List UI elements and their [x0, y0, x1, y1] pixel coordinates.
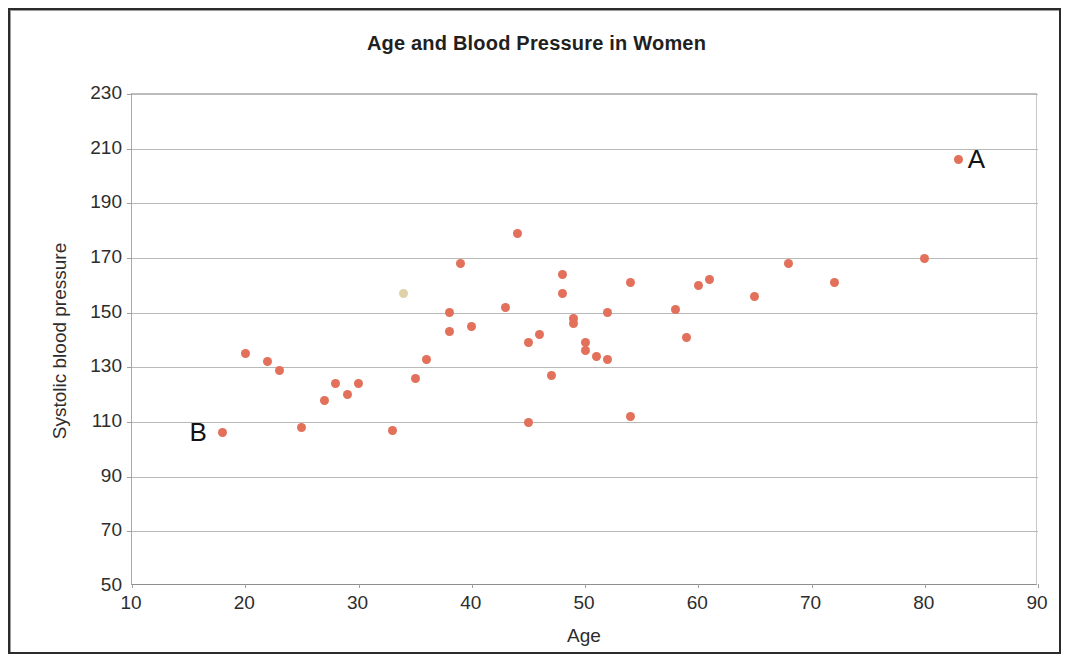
- y-tick-label-190: 190: [62, 191, 122, 213]
- x-tick-20: [245, 584, 246, 588]
- x-tick-label-40: 40: [441, 592, 501, 614]
- y-tick-110: [127, 422, 132, 423]
- data-point: [920, 254, 929, 263]
- x-tick-label-10: 10: [101, 592, 161, 614]
- data-point: [467, 322, 476, 331]
- gridline-y-130: [132, 367, 1038, 368]
- data-point: [343, 390, 352, 399]
- x-tick-50: [585, 584, 586, 588]
- x-tick-30: [359, 584, 360, 588]
- data-point: [603, 355, 612, 364]
- x-tick-40: [472, 584, 473, 588]
- annotation-a: A: [968, 146, 985, 172]
- data-point: [241, 349, 250, 358]
- y-tick-label-130: 130: [62, 355, 122, 377]
- data-point: [275, 366, 284, 375]
- gridline-y-150: [132, 313, 1038, 314]
- data-point: [411, 374, 420, 383]
- y-tick-label-90: 90: [62, 465, 122, 487]
- x-tick-10: [132, 584, 133, 588]
- y-tick-label-210: 210: [62, 137, 122, 159]
- data-point: [682, 333, 691, 342]
- y-tick-label-230: 230: [62, 82, 122, 104]
- y-tick-90: [127, 477, 132, 478]
- x-tick-label-90: 90: [1007, 592, 1067, 614]
- data-point: [456, 259, 465, 268]
- data-point: [535, 330, 544, 339]
- y-tick-210: [127, 149, 132, 150]
- data-point: [954, 155, 963, 164]
- data-point: [558, 289, 567, 298]
- x-tick-label-50: 50: [554, 592, 614, 614]
- data-point: [705, 275, 714, 284]
- data-point: [524, 418, 533, 427]
- y-tick-label-170: 170: [62, 246, 122, 268]
- gridline-y-110: [132, 422, 1038, 423]
- data-point: [694, 281, 703, 290]
- x-tick-label-30: 30: [328, 592, 388, 614]
- data-point: [399, 289, 408, 298]
- data-point: [445, 308, 454, 317]
- data-point: [501, 303, 510, 312]
- y-axis-label: Systolic blood pressure: [49, 181, 71, 501]
- data-point: [592, 352, 601, 361]
- y-tick-70: [127, 531, 132, 532]
- data-point: [626, 278, 635, 287]
- y-tick-230: [127, 94, 132, 95]
- x-tick-70: [812, 584, 813, 588]
- data-point: [263, 357, 272, 366]
- x-tick-90: [1038, 584, 1039, 588]
- plot-area: [131, 93, 1037, 585]
- x-tick-label-70: 70: [781, 592, 841, 614]
- data-point: [331, 379, 340, 388]
- gridline-y-70: [132, 531, 1038, 532]
- x-axis-label: Age: [131, 625, 1037, 647]
- data-point: [524, 338, 533, 347]
- gridline-y-190: [132, 203, 1038, 204]
- x-tick-60: [698, 584, 699, 588]
- data-point: [513, 229, 522, 238]
- y-tick-label-110: 110: [62, 410, 122, 432]
- y-tick-130: [127, 367, 132, 368]
- x-tick-label-20: 20: [214, 592, 274, 614]
- data-point: [784, 259, 793, 268]
- gridline-y-210: [132, 149, 1038, 150]
- data-point: [569, 319, 578, 328]
- data-point: [388, 426, 397, 435]
- data-point: [558, 270, 567, 279]
- data-point: [422, 355, 431, 364]
- annotation-b: B: [190, 419, 207, 445]
- chart-title: Age and Blood Pressure in Women: [0, 32, 1073, 55]
- data-point: [320, 396, 329, 405]
- gridline-y-90: [132, 477, 1038, 478]
- data-point: [354, 379, 363, 388]
- y-tick-150: [127, 313, 132, 314]
- gridline-y-230: [132, 94, 1038, 95]
- x-tick-label-80: 80: [894, 592, 954, 614]
- y-tick-170: [127, 258, 132, 259]
- data-point: [626, 412, 635, 421]
- data-point: [445, 327, 454, 336]
- data-point: [547, 371, 556, 380]
- screenshot-page: Age and Blood Pressure in Women 50709011…: [0, 0, 1073, 667]
- data-point: [581, 346, 590, 355]
- data-point: [297, 423, 306, 432]
- x-tick-80: [925, 584, 926, 588]
- x-axis-tick-labels: 102030405060708090: [0, 592, 1073, 620]
- data-point: [603, 308, 612, 317]
- data-point: [218, 428, 227, 437]
- gridline-y-170: [132, 258, 1038, 259]
- y-tick-label-70: 70: [62, 519, 122, 541]
- x-tick-label-60: 60: [667, 592, 727, 614]
- data-point: [830, 278, 839, 287]
- data-point: [750, 292, 759, 301]
- y-tick-190: [127, 203, 132, 204]
- y-tick-label-150: 150: [62, 301, 122, 323]
